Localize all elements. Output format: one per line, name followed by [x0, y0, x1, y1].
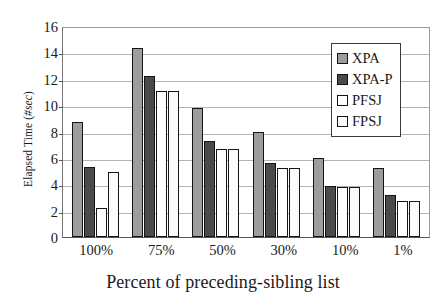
y-axis-tick-labels: 0246810121416 — [26, 27, 58, 238]
bar[interactable] — [265, 163, 276, 237]
bar[interactable] — [216, 149, 227, 237]
x-axis-tick-label: 10% — [332, 243, 359, 258]
bar[interactable] — [397, 201, 408, 237]
x-axis-tick-label: 50% — [209, 243, 236, 258]
legend-item-label: XPA-P — [352, 72, 393, 87]
bar-chart-figure: Elapsed Time (#sec) 0246810121416 100%75… — [0, 0, 446, 308]
x-axis-title: Percent of preceding-sibling list — [0, 272, 446, 293]
legend-item-label: XPA — [352, 51, 380, 66]
legend-item-label: FPSJ — [352, 114, 382, 129]
legend-swatch-icon — [337, 95, 348, 106]
y-axis-tick-label: 8 — [51, 125, 58, 140]
legend-item[interactable]: FPSJ — [337, 111, 393, 132]
x-axis-tick-label: 75% — [148, 243, 175, 258]
bar-group — [253, 28, 300, 237]
bar[interactable] — [204, 141, 215, 237]
legend-item[interactable]: PFSJ — [337, 90, 393, 111]
bar[interactable] — [108, 172, 119, 237]
y-axis-tick-label: 14 — [44, 46, 59, 61]
legend-item[interactable]: XPA-P — [337, 69, 393, 90]
bar[interactable] — [144, 76, 155, 237]
bar[interactable] — [409, 201, 420, 237]
bar[interactable] — [156, 91, 167, 237]
x-axis-tick-labels: 100%75%50%30%10%1% — [62, 243, 430, 258]
x-axis-tick-label: 100% — [79, 243, 113, 258]
y-axis-tick-label: 12 — [44, 73, 59, 88]
bar[interactable] — [313, 158, 324, 237]
bar[interactable] — [325, 186, 336, 237]
bar-group — [72, 28, 119, 237]
bar[interactable] — [72, 122, 83, 237]
bar-group — [192, 28, 239, 237]
y-axis-tick-label: 2 — [51, 204, 58, 219]
bar[interactable] — [373, 168, 384, 237]
y-axis-tick-label: 0 — [51, 231, 58, 246]
bar[interactable] — [192, 108, 203, 237]
x-axis-tick-label: 1% — [393, 243, 412, 258]
legend: XPAXPA-PPFSJFPSJ — [331, 43, 401, 137]
legend-item-label: PFSJ — [352, 93, 382, 108]
bar[interactable] — [277, 168, 288, 237]
bar[interactable] — [168, 91, 179, 237]
legend-swatch-icon — [337, 74, 348, 85]
y-axis-tick-label: 16 — [44, 20, 59, 35]
bar-group — [132, 28, 179, 237]
bar[interactable] — [84, 167, 95, 237]
legend-swatch-icon — [337, 53, 348, 64]
bar[interactable] — [228, 149, 239, 237]
bar[interactable] — [253, 132, 264, 238]
x-axis-tick-label: 30% — [271, 243, 298, 258]
bar[interactable] — [132, 48, 143, 237]
legend-item[interactable]: XPA — [337, 48, 393, 69]
bar[interactable] — [289, 168, 300, 237]
y-axis-tick-label: 10 — [44, 99, 59, 114]
y-axis-tick-label: 4 — [51, 178, 58, 193]
bar[interactable] — [385, 195, 396, 237]
bar[interactable] — [349, 187, 360, 237]
bar[interactable] — [337, 187, 348, 237]
y-axis-tick-label: 6 — [51, 152, 58, 167]
legend-swatch-icon — [337, 116, 348, 127]
bar[interactable] — [96, 208, 107, 237]
